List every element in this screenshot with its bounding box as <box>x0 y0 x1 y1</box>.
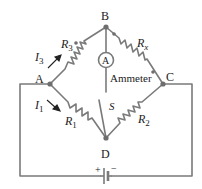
node-a-dot <box>47 81 52 86</box>
node-c-label: C <box>166 70 174 84</box>
i1-label: I1 <box>34 98 44 114</box>
outer-wire-left <box>20 84 100 176</box>
r1-label: R1 <box>64 114 77 130</box>
battery-plus-label: + <box>95 164 101 175</box>
switch-label: S <box>109 100 115 112</box>
slider-contact-rx <box>112 32 116 36</box>
slider-contact-rx-lower <box>151 70 155 74</box>
node-d-label: D <box>101 147 110 161</box>
slider-contact-r3 <box>74 41 78 45</box>
current-arrow-i3 <box>48 58 58 68</box>
outer-wire-right <box>112 84 192 176</box>
ammeter-label: Ammeter <box>110 72 152 84</box>
wheatstone-bridge-diagram: B A C D A Ammeter S R3 Rx R1 R2 I3 I1 + … <box>0 0 202 189</box>
node-c-dot <box>160 81 165 86</box>
r2-label: R2 <box>137 112 150 128</box>
r3-label: R3 <box>60 37 73 53</box>
i3-label: I3 <box>34 50 44 66</box>
node-b-label: B <box>101 9 109 23</box>
rx-label: Rx <box>136 36 148 52</box>
battery-icon <box>104 168 108 184</box>
battery-minus-label: − <box>111 163 117 174</box>
circuit-svg: B A C D A Ammeter S R3 Rx R1 R2 I3 I1 + … <box>0 0 202 189</box>
node-b-dot <box>103 24 108 29</box>
node-a-label: A <box>35 72 44 86</box>
ammeter-symbol: A <box>102 55 110 66</box>
resistor-r2 <box>106 84 163 138</box>
node-d-dot <box>103 135 108 140</box>
